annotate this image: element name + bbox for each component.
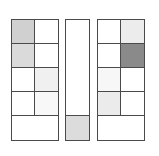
grid-cell bbox=[12, 92, 35, 116]
grid-cell bbox=[66, 116, 89, 140]
grid-cell bbox=[12, 116, 58, 140]
grid-cell bbox=[12, 68, 35, 92]
grid-cell bbox=[35, 92, 58, 116]
grid-cell bbox=[35, 20, 58, 44]
grid-cell bbox=[98, 116, 144, 140]
grid-cell bbox=[98, 20, 121, 44]
grid-cell bbox=[121, 68, 144, 92]
grid-cell bbox=[12, 20, 35, 44]
grid-cell bbox=[98, 44, 121, 68]
grid-cell bbox=[98, 92, 121, 116]
grid-cell bbox=[121, 44, 144, 68]
grid-cell bbox=[66, 20, 89, 116]
grid-cell bbox=[121, 20, 144, 44]
grid-cell bbox=[35, 44, 58, 68]
right-grid-panel bbox=[97, 19, 145, 141]
grid-cell bbox=[98, 68, 121, 92]
grid-cell bbox=[121, 92, 144, 116]
left-grid-panel bbox=[11, 19, 59, 141]
grid-cell bbox=[35, 68, 58, 92]
grid-cell bbox=[12, 44, 35, 68]
middle-column-panel bbox=[65, 19, 90, 141]
